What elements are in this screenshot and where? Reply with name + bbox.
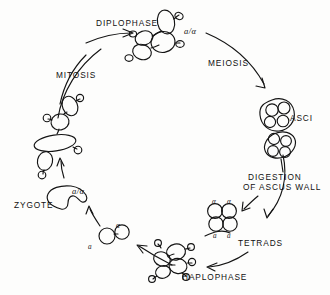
genotype-label-mating-cell-alpha: α <box>116 222 120 230</box>
mating-haploid-pair <box>99 225 129 244</box>
stage-label-digestion-of-ascus-wall-line2: OF ASCUS WALL <box>243 182 321 192</box>
arrow-zygote-to-budding <box>57 158 64 178</box>
leader-line-digestion <box>281 159 283 172</box>
arrow-into-diplophase <box>86 29 133 43</box>
diplophase-cell-cluster <box>125 8 184 62</box>
stage-label-meiosis: MEIOSIS <box>208 58 249 68</box>
arrow-digestion-to-tetrad <box>242 196 258 211</box>
genotype-label-tetrad-spore-a-1: a <box>213 232 217 240</box>
stage-label-diplophase: DIPLOPHASE <box>96 18 158 28</box>
stage-label-digestion-of-ascus-wall-line1: DIGESTION <box>248 172 302 182</box>
genotype-label-mating-cell-a: a <box>88 243 92 251</box>
stage-label-tetrads: TETRADS <box>238 238 283 248</box>
arrow-tetrads-to-haplophase <box>207 252 248 271</box>
yeast-life-cycle-diagram: DIPLOPHASE MEIOSIS ASCI TETRADS HAPLOPHA… <box>0 0 330 295</box>
genotype-label-zygote: a/α <box>72 186 84 196</box>
tetrad-four-spores <box>208 204 238 232</box>
life-cycle-artwork <box>0 0 330 295</box>
genotype-label-tetrad-spore-alpha-1: α <box>212 198 216 206</box>
stage-label-haplophase: HAPLOPHASE <box>182 272 247 282</box>
stage-label-asci: ASCI <box>290 113 313 123</box>
stage-label-mitosis: MITOSIS <box>56 70 96 80</box>
genotype-label-tetrad-spore-alpha-2: α <box>227 198 231 206</box>
arrow-mitosis-to-diplophase <box>58 49 101 118</box>
genotype-label-diplophase: a/α <box>184 26 196 36</box>
diploid-budding-cluster <box>33 94 84 179</box>
ascus-oval-with-spores <box>260 127 299 163</box>
stage-label-zygote: ZYGOTE <box>14 200 54 210</box>
genotype-label-tetrad-spore-a-2: a <box>227 232 231 240</box>
arrow-mating-to-zygote <box>86 206 100 226</box>
